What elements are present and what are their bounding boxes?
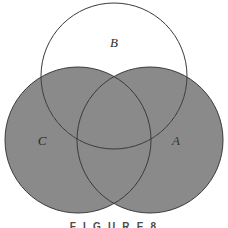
set-label-a: A <box>171 133 180 148</box>
set-label-b: B <box>110 35 118 50</box>
figure-caption: F I G U R E 8 <box>0 222 228 228</box>
venn-diagram: B C A <box>0 0 228 228</box>
set-label-c: C <box>38 133 47 148</box>
figure-container: B C A F I G U R E 8 <box>0 0 228 228</box>
